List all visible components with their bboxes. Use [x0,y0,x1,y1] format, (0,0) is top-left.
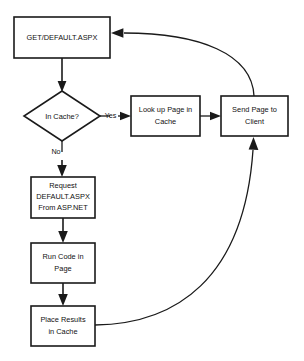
edge-send-to-get-curved [111,28,254,96]
node-request-aspnet-label-line-0: Request [49,181,77,190]
edge-place-to-send-curved [95,137,258,325]
node-get-request[interactable]: GET/DEFAULT.ASPX [14,17,110,58]
node-look-up-page-label-line-1: Cache [155,117,176,126]
edge-request-to-runcode [58,218,68,243]
node-send-page-label-line-0: Send Page to [232,105,277,114]
node-request-aspnet[interactable]: Request DEFAULT.ASPX From ASP.NET [31,177,95,218]
edge-label-yes: Yes [105,111,117,120]
edge-label-no: No [51,147,60,156]
node-run-code-label-line-1: Page [54,264,71,273]
edge-decision-no [57,141,67,177]
node-request-aspnet-label-line-2: From ASP.NET [38,203,88,212]
flowchart-svg: GET/DEFAULT.ASPX In Cache? Look up Page … [0,0,304,361]
node-look-up-page[interactable]: Look up Page in Cache [131,96,200,136]
node-in-cache-decision[interactable]: In Cache? [24,91,100,141]
node-run-code[interactable]: Run Code in Page [31,243,95,283]
edge-runcode-to-place [58,283,68,306]
edge-get-to-decision [58,58,67,92]
node-run-code-label-line-0: Run Code in [42,252,83,261]
node-send-page[interactable]: Send Page to Client [221,96,288,136]
edge-lookup-to-send [200,112,221,120]
node-place-results-label-line-1: in Cache [48,327,77,336]
node-look-up-page-label-line-0: Look up Page in [139,105,192,114]
node-in-cache-label: In Cache? [45,112,79,121]
node-get-request-label-line-0: GET/DEFAULT.ASPX [27,33,98,42]
flowchart-canvas: GET/DEFAULT.ASPX In Cache? Look up Page … [0,0,304,361]
node-send-page-label-line-1: Client [245,117,264,126]
node-request-aspnet-label-line-1: DEFAULT.ASPX [36,192,90,201]
node-place-results-label-line-0: Place Results [40,315,85,324]
node-place-results[interactable]: Place Results in Cache [31,306,95,346]
